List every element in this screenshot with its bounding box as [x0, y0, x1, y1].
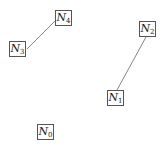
- node-n0-label: N: [38, 125, 48, 138]
- edge-n3-n4: [27, 20, 56, 49]
- node-n0: N0: [37, 124, 54, 140]
- node-n3: N3: [9, 41, 26, 57]
- edge-n1-n2: [117, 37, 146, 90]
- node-n1-label: N: [108, 91, 118, 104]
- node-n1: N1: [107, 90, 124, 106]
- node-n0-subscript: 0: [48, 131, 52, 139]
- node-n4: N4: [55, 10, 72, 26]
- node-n3-subscript: 3: [20, 48, 24, 56]
- node-n4-label: N: [56, 11, 66, 24]
- node-n3-label: N: [10, 42, 20, 55]
- node-n2: N2: [139, 21, 156, 37]
- node-n1-subscript: 1: [118, 97, 122, 105]
- node-n2-label: N: [140, 22, 150, 35]
- node-n2-subscript: 2: [150, 28, 154, 36]
- node-n4-subscript: 4: [66, 17, 70, 25]
